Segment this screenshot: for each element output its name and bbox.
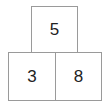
bottom-left-cell: 3: [8, 52, 56, 101]
bottom-right-cell: 8: [55, 52, 102, 101]
top-cell: 5: [31, 6, 78, 53]
